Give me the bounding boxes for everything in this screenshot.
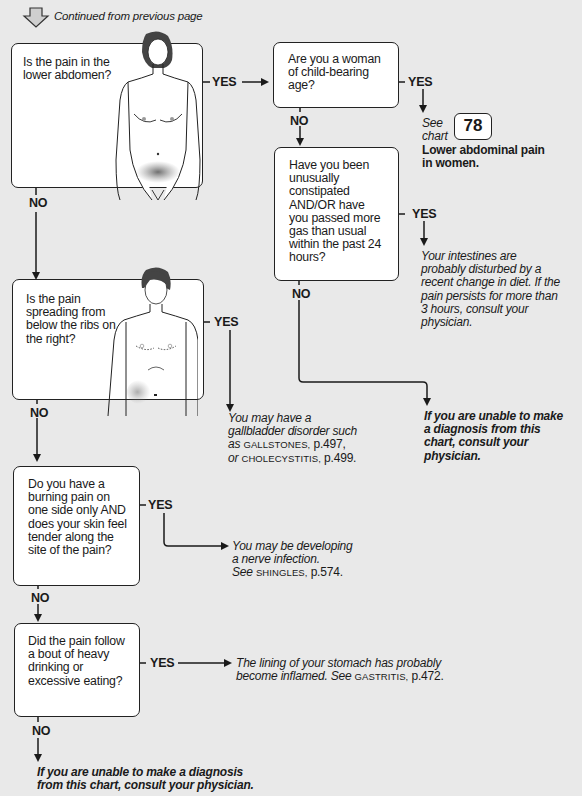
outcome-unable-diagnosis-bottom: If you are unable to make a diagnosis fr… bbox=[37, 766, 262, 792]
gastritis-reference[interactable]: GASTRITIS, bbox=[355, 671, 409, 682]
gallstones-reference[interactable]: GALLSTONES, bbox=[243, 439, 310, 450]
question-text: Is the pain spreading from below the rib… bbox=[26, 293, 118, 346]
no-label: NO bbox=[290, 114, 308, 128]
outcome-shingles: You may be developing a nerve infection.… bbox=[232, 540, 362, 580]
outcome-gastritis: The lining of your stomach has probably … bbox=[236, 657, 476, 683]
yes-label: YES bbox=[408, 75, 432, 89]
outcome-intestines: Your intestines are probably disturbed b… bbox=[421, 250, 561, 329]
yes-label: YES bbox=[412, 207, 436, 221]
question-box-burning-pain: Do you have a burning pain on one side o… bbox=[13, 466, 140, 586]
shingles-reference[interactable]: SHINGLES, bbox=[256, 567, 308, 578]
question-box-constipated-gas: Have you been unusually constipated AND/… bbox=[274, 147, 399, 281]
yes-label: YES bbox=[150, 656, 174, 670]
question-text: Did the pain follow a bout of heavy drin… bbox=[28, 635, 128, 688]
cholecystitis-reference[interactable]: CHOLECYSTITIS, bbox=[241, 453, 321, 464]
question-text: Do you have a burning pain on one side o… bbox=[28, 478, 132, 557]
no-label: NO bbox=[31, 591, 49, 605]
female-figure-illustration bbox=[112, 30, 204, 202]
chart-78-title[interactable]: Lower abdominal pain in women. bbox=[422, 144, 552, 170]
yes-label: YES bbox=[212, 75, 236, 89]
continued-label: Continued from previous page bbox=[54, 10, 202, 23]
outcome-unable-diagnosis-right: If you are unable to make a diagnosis fr… bbox=[424, 410, 564, 463]
male-figure-illustration bbox=[106, 266, 198, 424]
question-box-heavy-drinking: Did the pain follow a bout of heavy drin… bbox=[14, 623, 140, 717]
chart-78-reference[interactable]: 78 bbox=[454, 113, 492, 140]
question-text: Have you been unusually constipated AND/… bbox=[289, 159, 387, 265]
question-text: Is the pain in the lower abdomen? bbox=[23, 56, 118, 82]
chart-number: 78 bbox=[464, 116, 483, 135]
outcome-gallbladder: You may have a gallbladder disorder such… bbox=[228, 412, 358, 465]
no-label: NO bbox=[292, 287, 310, 301]
chart-label: chart bbox=[422, 130, 448, 143]
question-box-child-bearing-age: Are you a woman of child-bearing age? bbox=[273, 42, 399, 108]
question-text: Are you a woman of child-bearing age? bbox=[288, 53, 392, 93]
yes-label: YES bbox=[214, 315, 238, 329]
yes-label: YES bbox=[148, 498, 172, 512]
down-arrow-outline-icon bbox=[22, 6, 50, 30]
no-label: NO bbox=[29, 196, 47, 210]
no-label: NO bbox=[32, 724, 50, 738]
no-label: NO bbox=[30, 406, 48, 420]
